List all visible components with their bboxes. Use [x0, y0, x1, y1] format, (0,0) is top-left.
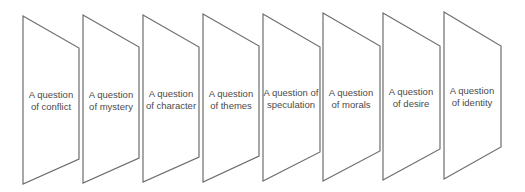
panel-label-line2: of desire — [381, 98, 441, 110]
panel-label-themes: A question of themes — [201, 88, 261, 112]
panel-label-line2: of morals — [321, 99, 381, 111]
panel-label-conflict: A question of conflict — [21, 89, 81, 113]
panel-label-line1: A question — [442, 85, 502, 97]
panel-label-mystery: A question of mystery — [81, 89, 141, 113]
panel-label-line1: A question — [201, 88, 261, 100]
panel-label-speculation: A question of speculation — [261, 87, 321, 111]
panel-label-line1: A question — [141, 88, 201, 100]
panel-label-line1: A question — [381, 86, 441, 98]
panel-label-desire: A question of desire — [381, 86, 441, 110]
panel-label-line2: of conflict — [21, 101, 81, 113]
panel-label-line2: of character — [141, 100, 201, 112]
panel-label-morals: A question of morals — [321, 87, 381, 111]
panel-label-line2: of mystery — [81, 101, 141, 113]
panel-label-character: A question of character — [141, 88, 201, 112]
panel-label-line1: A question — [21, 89, 81, 101]
panel-label-line1: A question of — [261, 87, 321, 99]
panel-label-line2: of themes — [201, 100, 261, 112]
panel-label-identity: A question of identity — [442, 85, 502, 109]
panel-label-line2: speculation — [261, 99, 321, 111]
panel-label-line2: of identity — [442, 97, 502, 109]
panel-label-line1: A question — [81, 89, 141, 101]
panel-label-line1: A question — [321, 87, 381, 99]
